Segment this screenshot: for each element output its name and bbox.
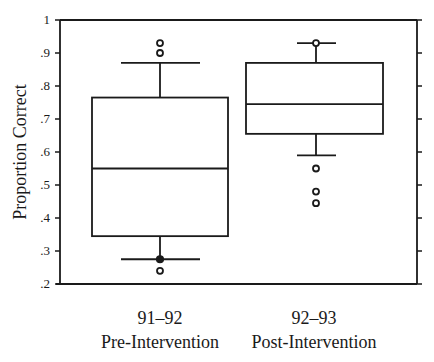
y-tick-label: .3 [40, 243, 50, 258]
boxplot-chart: 1.9.8.7.6.5.4.3.2 Proportion Correct 91–… [0, 0, 434, 362]
y-tick-labels: 1.9.8.7.6.5.4.3.2 [40, 12, 50, 291]
outlier-point [157, 50, 163, 56]
category-label-0: 91–92 [138, 308, 183, 328]
outlier-point [313, 200, 319, 206]
plot-frame [56, 20, 417, 284]
category-label-1: 92–93 [292, 308, 337, 328]
y-tick-label: .4 [40, 210, 50, 225]
boxes [92, 40, 383, 274]
box-iqr [246, 63, 383, 134]
y-tick-label: .8 [40, 78, 50, 93]
outlier-point [313, 166, 319, 172]
y-tick-label: .7 [40, 111, 50, 126]
outlier-point [157, 268, 163, 274]
outlier-point [313, 40, 319, 46]
outlier-point [313, 189, 319, 195]
box-0 [92, 40, 228, 274]
y-tick-label: 1 [44, 12, 51, 27]
box-1 [246, 40, 383, 206]
box-iqr [92, 98, 228, 237]
category-sublabel-0: Pre-Intervention [101, 332, 219, 352]
y-axis-title: Proportion Correct [10, 84, 30, 219]
y-tick-label: .9 [40, 45, 50, 60]
y-tick-label: .5 [40, 177, 50, 192]
outlier-point [157, 40, 163, 46]
y-tick-label: .6 [40, 144, 50, 159]
y-tick-label: .2 [40, 276, 50, 291]
category-sublabel-1: Post-Intervention [252, 332, 377, 352]
y-ticks [55, 20, 422, 284]
filled-point [157, 256, 163, 262]
